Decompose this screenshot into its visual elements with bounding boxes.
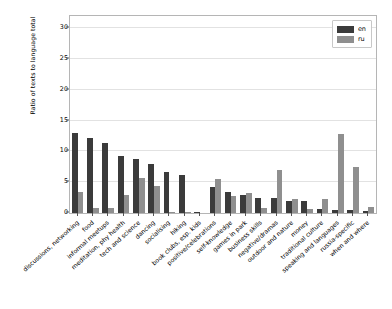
bar-group — [85, 16, 100, 213]
bar-group — [254, 16, 269, 213]
bar-ru[interactable] — [108, 208, 114, 213]
bar-group — [269, 16, 284, 213]
legend-label-ru: ru — [358, 35, 365, 43]
bar-ru[interactable] — [185, 212, 191, 213]
bar-en[interactable] — [164, 172, 170, 213]
y-tick-label: 0 — [38, 208, 68, 216]
bar-ru[interactable] — [124, 195, 130, 213]
bar-ru[interactable] — [277, 170, 283, 213]
bar-group — [162, 16, 177, 213]
bar-group — [101, 16, 116, 213]
x-tick-mark — [184, 213, 185, 216]
bar-group — [300, 16, 315, 213]
bar-ru[interactable] — [292, 199, 298, 213]
bar-group — [208, 16, 223, 213]
bar-ru[interactable] — [322, 199, 328, 213]
bar-en[interactable] — [179, 175, 185, 213]
bar-group — [177, 16, 192, 213]
bar-group — [70, 16, 85, 213]
legend-swatch-en-icon — [337, 26, 354, 33]
legend-item-en[interactable]: en — [337, 24, 366, 34]
x-tick-mark — [367, 213, 368, 216]
x-tick-mark — [321, 213, 322, 216]
x-tick-mark — [168, 213, 169, 216]
bar-ru[interactable] — [246, 193, 252, 213]
y-tick-label: 20 — [38, 85, 68, 93]
bar-ru[interactable] — [338, 134, 344, 213]
plot-area: en ru — [69, 15, 377, 214]
legend[interactable]: en ru — [332, 20, 372, 48]
x-tick-mark — [214, 213, 215, 216]
bar-en[interactable] — [87, 138, 93, 213]
x-tick-mark — [199, 213, 200, 216]
bar-series-container — [70, 16, 376, 213]
bar-ru[interactable] — [169, 212, 175, 213]
bar-ru[interactable] — [78, 192, 84, 213]
bar-group — [192, 16, 207, 213]
x-tick-mark — [276, 213, 277, 216]
y-axis-label: Ratio of texts to language total — [29, 0, 36, 146]
y-tick-label: 10 — [38, 146, 68, 154]
bar-group — [116, 16, 131, 213]
bar-ru[interactable] — [261, 208, 267, 213]
bar-ru[interactable] — [353, 167, 359, 213]
x-tick-mark — [245, 213, 246, 216]
legend-label-en: en — [358, 25, 366, 33]
bar-ru[interactable] — [154, 186, 160, 213]
x-tick-mark — [153, 213, 154, 216]
bar-ru[interactable] — [215, 179, 221, 213]
bar-ru[interactable] — [139, 178, 145, 213]
y-tick-label: 15 — [38, 116, 68, 124]
y-tick-label: 5 — [38, 177, 68, 185]
legend-swatch-ru-icon — [337, 36, 354, 43]
x-tick-mark — [352, 213, 353, 216]
bar-en[interactable] — [102, 143, 108, 213]
legend-item-ru[interactable]: ru — [337, 34, 366, 44]
bar-ru[interactable] — [307, 209, 313, 213]
bar-group — [147, 16, 162, 213]
y-tick-label: 30 — [38, 23, 68, 31]
bar-group — [315, 16, 330, 213]
x-tick-mark — [123, 213, 124, 216]
x-tick-mark — [107, 213, 108, 216]
x-tick-mark — [306, 213, 307, 216]
bar-group — [238, 16, 253, 213]
x-tick-mark — [291, 213, 292, 216]
figure: Ratio of texts to language total 0510152… — [0, 0, 392, 309]
x-tick-mark — [230, 213, 231, 216]
x-tick-mark — [138, 213, 139, 216]
bar-group — [131, 16, 146, 213]
x-tick-mark — [92, 213, 93, 216]
bar-ru[interactable] — [368, 207, 374, 213]
x-tick-mark — [260, 213, 261, 216]
x-tick-mark — [337, 213, 338, 216]
bar-ru[interactable] — [93, 208, 99, 213]
x-axis-ticks: discussions, networkingfoodinformal meet… — [69, 216, 377, 308]
bar-group — [223, 16, 238, 213]
bar-group — [284, 16, 299, 213]
y-tick-label: 25 — [38, 54, 68, 62]
bar-ru[interactable] — [231, 196, 237, 213]
x-tick-mark — [77, 213, 78, 216]
